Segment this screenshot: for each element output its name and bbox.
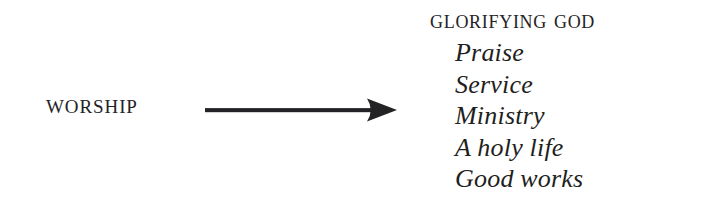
- result-block: Glorifying God Praise Service Ministry A…: [430, 4, 692, 195]
- right-arrow-icon: [205, 96, 397, 124]
- list-item: Praise: [455, 37, 692, 69]
- list-item: Ministry: [455, 100, 692, 132]
- list-item: Good works: [455, 163, 692, 195]
- result-item-list: Praise Service Ministry A holy life Good…: [430, 37, 692, 195]
- source-term-worship: Worship: [46, 89, 138, 119]
- result-heading-glorifying-god: Glorifying God: [430, 4, 692, 35]
- list-item: Service: [455, 69, 692, 101]
- worship-flow-diagram: Worship Glorifying God Praise Service Mi…: [0, 0, 701, 222]
- list-item: A holy life: [455, 132, 692, 164]
